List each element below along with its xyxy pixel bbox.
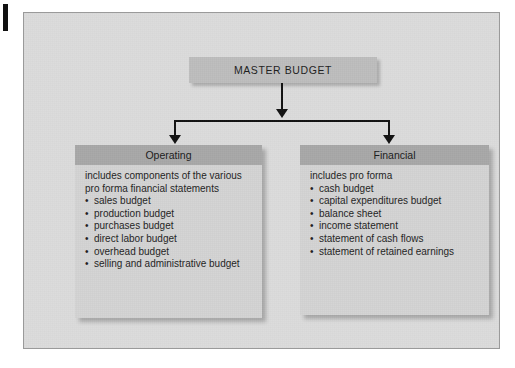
- panel-operating-title: Operating: [145, 149, 191, 161]
- panel-operating-list: sales budget production budget purchases…: [85, 195, 253, 271]
- panel-operating-body: includes components of the various pro f…: [75, 165, 262, 277]
- panel-financial-list: cash budget capital expenditures budget …: [310, 183, 480, 259]
- list-item: overhead budget: [85, 246, 253, 259]
- panel-operating-header: Operating: [75, 145, 262, 165]
- connector-root-stem: [281, 83, 283, 111]
- panel-operating-intro: includes components of the various pro f…: [85, 170, 253, 195]
- list-item: production budget: [85, 208, 253, 221]
- node-master-budget: MASTER BUDGET: [189, 57, 377, 83]
- list-item: capital expenditures budget: [310, 195, 480, 208]
- figure-frame: MASTER BUDGET Operating includes compone…: [23, 12, 500, 349]
- panel-operating: Operating includes components of the var…: [75, 145, 262, 318]
- list-item: statement of retained earnings: [310, 246, 480, 259]
- connector-horizontal-rail: [174, 120, 390, 122]
- arrowhead-operating-down-icon: [169, 135, 181, 144]
- list-item: direct labor budget: [85, 233, 253, 246]
- panel-financial-header: Financial: [300, 145, 489, 165]
- page-edge-mark: [3, 4, 8, 31]
- panel-financial-intro: includes pro forma: [310, 170, 480, 183]
- node-master-budget-label: MASTER BUDGET: [234, 64, 332, 76]
- panel-financial-title: Financial: [373, 149, 415, 161]
- arrowhead-financial-down-icon: [383, 135, 395, 144]
- list-item: balance sheet: [310, 208, 480, 221]
- panel-financial-body: includes pro forma cash budget capital e…: [300, 165, 489, 264]
- arrowhead-root-down-icon: [276, 109, 288, 118]
- list-item: statement of cash flows: [310, 233, 480, 246]
- list-item: sales budget: [85, 195, 253, 208]
- figure-canvas: MASTER BUDGET Operating includes compone…: [0, 0, 515, 368]
- list-item: cash budget: [310, 183, 480, 196]
- panel-financial: Financial includes pro forma cash budget…: [300, 145, 489, 315]
- list-item: income statement: [310, 220, 480, 233]
- list-item: purchases budget: [85, 220, 253, 233]
- list-item: selling and administrative budget: [85, 258, 253, 271]
